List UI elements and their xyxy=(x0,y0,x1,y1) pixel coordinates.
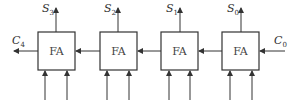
block-label: FA xyxy=(111,45,127,58)
carry-in-label: C0 xyxy=(274,34,287,49)
block-label: FA xyxy=(49,45,65,58)
sum-label-s0: S0 xyxy=(227,2,239,17)
carry-out-label: C4 xyxy=(12,34,25,49)
ripple-carry-adder-diagram: FA S3 FA S2 FA S1 FA S0 C4 C0 xyxy=(0,0,298,100)
sum-label-s2: S2 xyxy=(104,2,116,17)
full-adder-block-3: FA S3 xyxy=(38,2,75,100)
block-label: FA xyxy=(172,45,188,58)
full-adder-block-2: FA S2 xyxy=(100,2,137,100)
sum-label-s1: S1 xyxy=(166,2,178,17)
full-adder-block-1: FA S1 xyxy=(161,2,198,100)
sum-label-s3: S3 xyxy=(42,2,54,17)
block-label: FA xyxy=(233,45,249,58)
full-adder-block-0: FA S0 xyxy=(222,2,259,100)
